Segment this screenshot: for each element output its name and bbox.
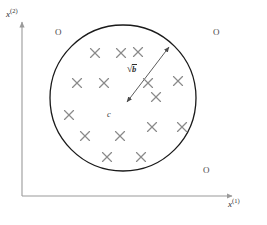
- outlier-label: O: [213, 28, 220, 37]
- circle-center-label: c: [107, 110, 111, 119]
- cross-marker: [152, 93, 161, 102]
- figure-root: x(2) x(1) O O O c √b: [0, 0, 267, 225]
- region-circle: [50, 25, 196, 171]
- cross-marker: [81, 132, 90, 141]
- cross-marker: [174, 77, 183, 86]
- cross-marker: [134, 48, 143, 57]
- cross-marker: [73, 79, 82, 88]
- cross-marker: [144, 79, 153, 88]
- radius-arrow: [127, 47, 169, 102]
- x-axis-label-superscript: (1): [232, 197, 240, 204]
- axes-group: [22, 22, 232, 196]
- figure-canvas: [0, 0, 267, 225]
- cross-marker: [137, 153, 146, 162]
- cross-marker: [65, 111, 74, 120]
- y-axis-label: x(2): [6, 10, 18, 19]
- cross-marker: [116, 132, 125, 141]
- sqrt-radicand: b: [132, 64, 138, 74]
- radius-arrow-group: [127, 47, 169, 102]
- cross-marker: [178, 123, 187, 132]
- sqrt-expression: √b: [127, 64, 137, 74]
- outlier-label: O: [55, 28, 62, 37]
- cross-marker: [117, 49, 126, 58]
- radius-label: √b: [127, 64, 137, 74]
- inlier-cross-layer: [65, 48, 187, 162]
- cross-marker: [100, 79, 109, 88]
- cross-marker: [91, 49, 100, 58]
- cross-marker: [148, 123, 157, 132]
- outlier-label: O: [203, 166, 210, 175]
- region-group: [50, 25, 196, 171]
- y-axis-label-superscript: (2): [10, 7, 18, 14]
- x-axis-label: x(1): [228, 200, 240, 209]
- cross-marker: [103, 153, 112, 162]
